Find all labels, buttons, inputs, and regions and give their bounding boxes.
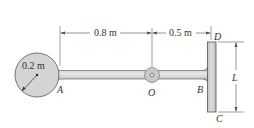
dim-label-L: L	[231, 72, 238, 83]
vertical-bar	[208, 42, 217, 112]
point-C-label: C	[216, 113, 223, 124]
rod	[55, 67, 208, 82]
dimension-0-5m: 0.5 m	[152, 27, 211, 38]
radius-label: 0.2 m	[22, 60, 45, 71]
dim-label-0-8m: 0.8 m	[94, 27, 117, 38]
point-D-label: D	[213, 31, 222, 42]
point-B-label: B	[197, 84, 203, 95]
dimension-L: L	[231, 42, 238, 112]
dim-label-0-5m: 0.5 m	[169, 27, 192, 38]
point-O-label: O	[148, 87, 155, 98]
dimension-0-8m: 0.8 m	[60, 27, 152, 38]
pivot-pin	[150, 73, 154, 77]
point-A-label: A	[56, 84, 64, 95]
pendulum-diagram: 0.8 m 0.5 m L 0.2 m A O B D C	[0, 0, 254, 128]
